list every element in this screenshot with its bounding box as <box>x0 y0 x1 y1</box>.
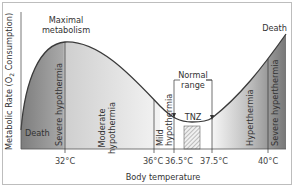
metabolic-rate-diagram: Metabolic Rate (O2 Consumption) Maximal … <box>0 0 296 189</box>
tick-32: 32°C <box>55 156 76 166</box>
normal-label: Normal <box>178 70 208 80</box>
death-left-label: Death <box>25 128 50 138</box>
metabolism-label: metabolism <box>42 25 90 35</box>
x-axis-label: Body temperature <box>126 172 201 182</box>
tick-40: 40°C <box>258 156 279 166</box>
moderate-label: Moderate <box>97 109 107 148</box>
moderate-hypothermia-label: hypothermia <box>107 102 117 154</box>
tnz-label: TNZ <box>184 112 202 122</box>
tick-36: 36°C <box>143 156 164 166</box>
mild-hypothermia-label: hypothermia <box>164 94 174 146</box>
y-axis-label: Metabolic Rate (O2 Consumption) <box>4 13 15 150</box>
range-label: range <box>181 80 205 90</box>
tnz-hatch <box>184 126 200 149</box>
death-right-label: Death <box>262 23 287 33</box>
tick-37-5: 37.5°C <box>200 156 228 166</box>
maximal-label: Maximal <box>49 15 83 25</box>
tick-36-5: 36.5°C <box>165 156 193 166</box>
severe-hyperthermia-label: Severe hyperthermia <box>270 59 280 146</box>
hyperthermia-label: Hyperthermia <box>245 89 255 146</box>
severe-hypothermia-label: Severe hypothermia <box>54 63 64 146</box>
